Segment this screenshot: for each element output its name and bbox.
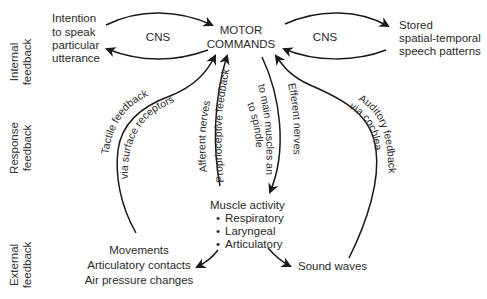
arrow-stored-to-motor	[284, 49, 386, 59]
svg-text:feedback: feedback	[21, 124, 33, 171]
svg-text:particular: particular	[52, 39, 99, 51]
svg-text:Articulatory: Articulatory	[225, 238, 283, 250]
svg-text:Air pressure changes: Air pressure changes	[85, 274, 194, 286]
svg-text:Intention: Intention	[52, 12, 96, 24]
node-stored-patterns: Stored spatial-temporal speech patterns	[399, 19, 481, 57]
svg-text:External: External	[8, 244, 20, 286]
svg-text:COMMANDS: COMMANDS	[207, 38, 276, 50]
label-cns-left: CNS	[146, 31, 171, 43]
arrow-to-movements	[197, 250, 218, 267]
label-cns-right: CNS	[313, 31, 338, 43]
svg-text:MOTOR: MOTOR	[220, 24, 263, 36]
arrow-intention-to-motor	[106, 13, 212, 25]
svg-text:Internal: Internal	[8, 43, 20, 81]
svg-text:Movements: Movements	[109, 244, 169, 256]
arrow-motor-to-intention	[107, 49, 208, 59]
label-afferent-nerves: Afferent nerves	[195, 99, 212, 173]
svg-text:•: •	[216, 225, 220, 237]
svg-text:Response: Response	[8, 122, 20, 174]
svg-text:Laryngeal: Laryngeal	[225, 225, 276, 237]
svg-text:feedback: feedback	[21, 241, 33, 288]
speech-feedback-diagram: Internal feedback Response feedback Exte…	[0, 0, 487, 299]
svg-text:•: •	[216, 238, 220, 250]
node-motor-commands: MOTOR COMMANDS	[207, 24, 276, 50]
svg-text:utterance: utterance	[52, 52, 100, 64]
svg-text:Stored: Stored	[399, 19, 433, 31]
side-label-response: Response feedback	[8, 122, 33, 174]
svg-text:•: •	[216, 212, 220, 224]
node-intention: Intention to speak particular utterance	[52, 12, 100, 64]
svg-text:spatial-temporal: spatial-temporal	[399, 32, 481, 44]
node-muscle-activity: Muscle activity • Respiratory • Laryngea…	[210, 199, 285, 250]
side-label-internal: Internal feedback	[8, 38, 33, 85]
side-label-external: External feedback	[8, 241, 33, 288]
svg-text:Respiratory: Respiratory	[225, 212, 284, 224]
svg-text:Muscle activity: Muscle activity	[210, 199, 285, 211]
svg-text:feedback: feedback	[21, 38, 33, 85]
svg-text:speech patterns: speech patterns	[399, 45, 481, 57]
svg-text:Articulatory contacts: Articulatory contacts	[87, 259, 191, 271]
label-proprioceptive-feedback: Proprioceptive feedback	[211, 67, 231, 183]
arrow-motor-to-stored	[285, 13, 388, 26]
arrow-to-sound	[268, 248, 290, 266]
svg-text:to speak: to speak	[52, 26, 96, 38]
label-efferent-nerves: Efferent nerves	[286, 82, 304, 155]
node-sound-waves: Sound waves	[298, 260, 367, 272]
node-movements: Movements Articulatory contacts Air pres…	[85, 244, 194, 286]
